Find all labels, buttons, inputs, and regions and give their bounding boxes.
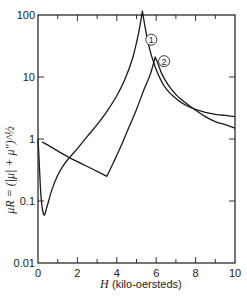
x-tick-label: 8	[193, 267, 199, 279]
y-tick-label: 10	[23, 71, 35, 83]
marker-number: 1	[149, 35, 154, 45]
axis-ticks	[38, 15, 235, 263]
y-axis-label: μR = (|μ| + μ'')^½	[3, 126, 17, 214]
curve-series-1	[38, 11, 235, 215]
x-axis-var: H	[99, 277, 110, 291]
y-tick-label: 100	[17, 9, 35, 21]
x-axis-unit: (kilo-oersteds)	[112, 278, 182, 290]
y-axis-title: μR = (|μ| + μ'')^½	[3, 126, 17, 214]
x-axis-title: H (kilo-oersteds)	[99, 277, 182, 291]
x-tick-label: 10	[229, 267, 241, 279]
chart: 0246810 0.010.1110100 12 H (kilo-oersted…	[0, 0, 247, 296]
y-tick-label: 0.1	[20, 195, 35, 207]
series-marker-1: 1	[146, 34, 157, 45]
curve-series-2	[42, 57, 235, 176]
y-tick-label: 1	[29, 133, 35, 145]
y-tick-label: 0.01	[14, 257, 35, 269]
x-tick-label: 2	[74, 267, 80, 279]
curves	[38, 11, 235, 215]
series-marker-2: 2	[159, 56, 170, 67]
marker-number: 2	[162, 57, 167, 67]
plot-frame	[38, 15, 235, 263]
x-tick-label: 0	[35, 267, 41, 279]
